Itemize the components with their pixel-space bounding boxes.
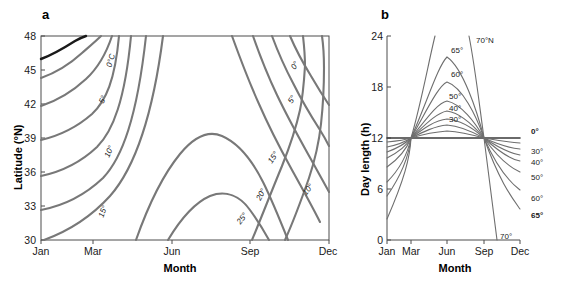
curve-label-40-right: 40° [531,158,543,167]
curve-65deg [387,57,520,209]
curve-label-65-peak: 65° [451,46,463,55]
panel-a-ytick-42: 42 [16,98,36,110]
curve-label-70-right: 70° [500,232,512,241]
panel-b-xtick-sep: Sep [469,245,499,257]
panel-a-ytick-45: 45 [16,64,36,76]
panel-b-xtick-jun: Jun [432,245,462,257]
curve-label-50-right: 50° [531,173,543,182]
curve-label-70N: 70°N [476,36,494,45]
curve-70deg-rise [387,36,435,219]
panel-b-ylabel: Day length (h) [359,123,371,196]
panel-a-ytick-33: 33 [16,200,36,212]
panel-a: a [0,0,345,282]
curve-label-30-peak: 30° [449,115,461,124]
curve-label-30-right: 30° [531,147,543,156]
panel-b-ytick-24: 24 [363,30,383,42]
panel-b-ytick-18: 18 [363,81,383,93]
curve-30deg [387,119,520,155]
curve-label-60-right: 60° [531,194,543,203]
panel-a-xtick-dec: Dec [313,245,343,257]
figure-container: a [0,0,563,282]
panel-b-xlabel: Month [425,262,485,274]
curve-label-65-right: 65° [531,211,543,220]
panel-a-xtick-jan: Jan [26,245,56,257]
panel-a-xtick-mar: Mar [78,245,108,257]
panel-a-plot [0,0,345,282]
curve-label-60-peak: 60° [451,70,463,79]
panel-b-curves [387,36,520,240]
panel-a-xtick-jun: Jun [157,245,187,257]
panel-a-ytick-48: 48 [16,30,36,42]
panel-a-xtick-sep: Sep [235,245,265,257]
curve-label-0-right: 0° [531,127,539,136]
panel-b-xtick-dec: Dec [505,245,535,257]
curve-label-50-peak: 50° [449,92,461,101]
curve-label-40-peak: 40° [449,104,461,113]
panel-a-ylabel: Latitude (°N) [12,124,24,190]
panel-b-xtick-mar: Mar [396,245,426,257]
panel-b: b [345,0,563,282]
panel-a-xlabel: Month [150,262,210,274]
